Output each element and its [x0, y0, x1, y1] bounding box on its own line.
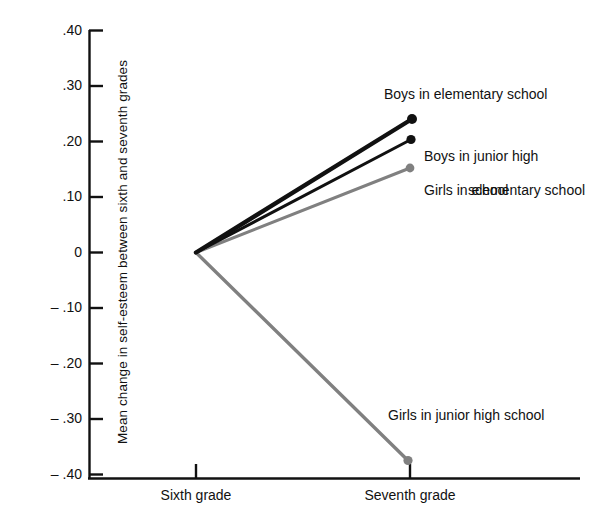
- x-axis-ticks: [196, 464, 410, 478]
- x-tick-label-sixth-grade: Sixth grade: [161, 487, 232, 503]
- y-tick-label-0.10: .10: [22, 188, 82, 204]
- series-girls-junior-high: [196, 253, 413, 466]
- y-axis-ticks: [89, 31, 103, 475]
- series-boys-junior-high: [196, 135, 416, 253]
- y-tick-label-neg0.40: – .40: [22, 466, 82, 482]
- y-tick-label-neg0.20: – .20: [22, 355, 82, 371]
- y-tick-label-0.40: .40: [22, 22, 82, 38]
- series-label-boys-junior-high-line1: Boys in junior high: [424, 148, 538, 164]
- y-axis-title: Mean change in self-esteem between sixth…: [115, 2, 130, 502]
- y-tick-label-0.30: .30: [22, 77, 82, 93]
- y-tick-label-0.20: .20: [22, 133, 82, 149]
- y-tick-label-0: 0: [22, 244, 82, 260]
- series-label-boys-elementary: Boys in elementary school: [384, 86, 547, 103]
- series-girls-elementary: [196, 164, 414, 253]
- line-chart-plot: [0, 0, 590, 517]
- series-label-girls-elementary: Girls in elementary school: [424, 182, 585, 199]
- series-boys-elementary: [196, 114, 417, 253]
- chart-figure: Mean change in self-esteem between sixth…: [0, 0, 590, 517]
- series-label-girls-junior-high: Girls in junior high school: [388, 407, 544, 424]
- x-tick-label-seventh-grade: Seventh grade: [364, 487, 455, 503]
- y-tick-label-neg0.30: – .30: [22, 410, 82, 426]
- y-tick-label-neg0.10: – .10: [22, 299, 82, 315]
